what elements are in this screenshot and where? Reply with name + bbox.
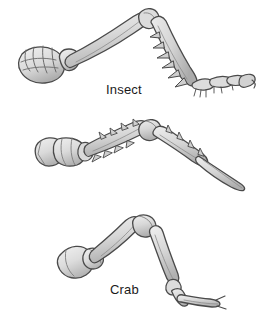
arthropod-leg-comparison-figure: Insect — [0, 0, 258, 318]
specimen-label-insect: Insect — [106, 82, 142, 97]
specimen-panel-crab: Crab — [0, 110, 258, 210]
specimen-panel-spider: Spider — [0, 210, 258, 318]
spider-tibia — [149, 226, 178, 284]
insect-tarsus — [192, 74, 255, 97]
spider-leg-drawing — [0, 210, 258, 318]
crab-leg-drawing — [0, 110, 258, 210]
spider-tarsal-claw — [216, 296, 225, 300]
insect-coxa-group — [18, 46, 64, 83]
crab-dactyl — [196, 156, 245, 191]
insect-femur — [65, 12, 151, 68]
specimen-panel-insect: Insect — [0, 0, 258, 110]
